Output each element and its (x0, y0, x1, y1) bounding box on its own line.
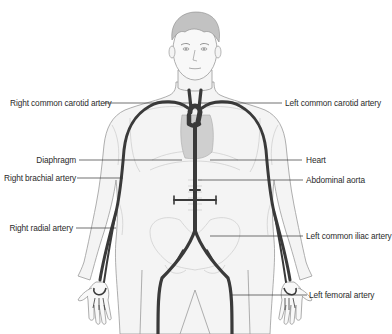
label-heart: Heart (306, 155, 326, 165)
label-left-common-carotid-artery: Left common carotid artery (285, 98, 381, 108)
label-right-brachial-artery: Right brachial artery (4, 173, 74, 183)
label-diaphragm: Diaphragm (10, 155, 76, 165)
label-left-femoral-artery: Left femoral artery (309, 290, 374, 300)
label-left-common-iliac-artery: Left common iliac artery (306, 231, 392, 241)
label-abdominal-aorta: Abdominal aorta (306, 175, 365, 185)
label-right-radial-artery: Right radial artery (4, 223, 73, 233)
head (169, 12, 221, 80)
label-right-common-carotid-artery: Right common carotid artery (10, 98, 101, 108)
